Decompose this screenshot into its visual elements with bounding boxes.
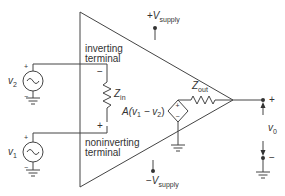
output-impedance-label: Zout: [191, 80, 208, 93]
ground-icon-dependent: [171, 145, 185, 151]
output-resistor-zigzag-icon: [191, 96, 215, 104]
ground-icon-output: [256, 172, 270, 178]
negative-supply-terminal: [151, 169, 155, 173]
dependent-source-expression: A(v1 − v2): [121, 106, 165, 118]
input-impedance-label: Zin: [113, 88, 126, 101]
arrow-up-icon: [261, 102, 266, 108]
source-v1-plus: +: [24, 134, 28, 141]
source-v2-label: v2: [8, 75, 17, 88]
inverting-input-wire: [33, 64, 107, 72]
source-v1-label: v1: [8, 146, 17, 159]
source-v1-sine-icon: [27, 150, 39, 155]
source-v2-plus: +: [24, 63, 28, 70]
op-amp-triangle: [80, 12, 233, 187]
ground-icon-v1: [26, 170, 40, 176]
dependent-source-plus: +: [176, 102, 180, 109]
positive-supply-terminal: [153, 26, 157, 30]
source-v2-minus: −: [24, 93, 28, 100]
dependent-source-minus: −: [176, 113, 180, 120]
circuit-svg: +Vsupply −Vsupply inverting terminal − +…: [0, 0, 285, 196]
noninverting-polarity-sign: +: [97, 120, 103, 131]
input-resistor-zigzag-icon: [103, 82, 111, 108]
ground-icon-v2: [26, 98, 40, 104]
source-v1-minus: −: [24, 164, 28, 171]
arrow-down-icon: [261, 150, 266, 156]
output-minus-sign: −: [269, 152, 275, 163]
noninverting-terminal-label-line2: terminal: [85, 147, 121, 158]
output-positive-terminal: [261, 98, 265, 102]
inverting-terminal-label-line2: terminal: [85, 53, 121, 64]
op-amp-circuit-diagram: +Vsupply −Vsupply inverting terminal − +…: [0, 0, 285, 196]
positive-supply-label: +Vsupply: [147, 10, 180, 24]
output-negative-terminal: [261, 156, 265, 160]
negative-supply-label: −Vsupply: [146, 175, 179, 189]
inverting-polarity-sign: −: [97, 66, 103, 77]
output-plus-sign: +: [269, 94, 275, 105]
output-voltage-label: v0: [268, 122, 277, 135]
source-v2-sine-icon: [27, 79, 39, 84]
